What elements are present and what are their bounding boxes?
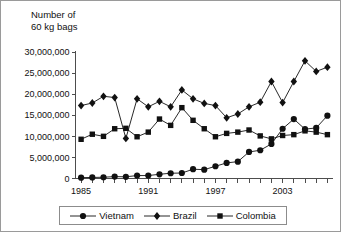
y-tick-label: 15,000,000 [24, 110, 69, 120]
x-axis: 1985199119972003 [71, 179, 333, 196]
square-marker-icon [207, 210, 233, 222]
legend-item-colombia[interactable]: Colombia [207, 210, 276, 222]
data-point [179, 105, 184, 110]
data-point [280, 126, 286, 132]
y-tick-label: 20,000,000 [24, 89, 69, 99]
chart-legend: VietnamBrazilColombia [59, 206, 287, 225]
data-point [134, 134, 139, 139]
data-point [235, 129, 240, 134]
data-point [146, 129, 151, 134]
data-point [157, 116, 162, 121]
data-point [291, 132, 296, 137]
data-point [269, 136, 274, 141]
data-point [100, 174, 106, 180]
data-point [302, 57, 308, 65]
data-point [123, 174, 129, 180]
data-point [212, 163, 218, 169]
circle-marker-icon [70, 210, 96, 222]
legend-label: Colombia [236, 210, 276, 221]
y-tick-label: 25,000,000 [24, 68, 69, 78]
data-point [314, 129, 319, 134]
x-tick-label: 1991 [138, 186, 158, 196]
chart-plot-area: 05,000,00010,000,00015,000,00020,000,000… [1, 1, 341, 232]
data-point [313, 67, 319, 75]
data-point [78, 137, 83, 142]
y-tick-label: 30,000,000 [24, 47, 69, 57]
data-point [145, 172, 151, 178]
legend-label: Vietnam [99, 210, 134, 221]
data-point [89, 174, 95, 180]
data-point [190, 118, 195, 123]
y-tick-label: 5,000,000 [29, 153, 69, 163]
data-point [112, 174, 118, 180]
data-point [123, 126, 128, 131]
legend-item-brazil[interactable]: Brazil [144, 210, 197, 222]
data-point [224, 131, 229, 136]
y-axis: 05,000,00010,000,00015,000,00020,000,000… [24, 47, 75, 184]
data-point [134, 95, 140, 103]
data-point [112, 126, 117, 131]
y-tick-label: 10,000,000 [24, 132, 69, 142]
data-point [258, 133, 263, 138]
data-point [324, 113, 330, 119]
data-point [90, 132, 95, 137]
y-tick-label: 0 [64, 174, 69, 184]
data-point [246, 149, 252, 155]
data-point [78, 175, 84, 181]
legend-label: Brazil [173, 210, 197, 221]
data-point [156, 97, 162, 105]
data-point [100, 92, 106, 100]
x-tick-label: 1997 [205, 186, 225, 196]
chart-figure: Number of 60 kg bags 05,000,00010,000,00… [0, 0, 341, 232]
data-point [201, 100, 207, 108]
data-point [257, 147, 263, 153]
data-point [190, 166, 196, 172]
data-point [268, 141, 274, 147]
data-point [145, 103, 151, 111]
series-colombia [78, 105, 330, 142]
diamond-marker-icon [144, 210, 170, 222]
data-point [168, 123, 173, 128]
x-tick-label: 2003 [273, 186, 293, 196]
data-point [111, 94, 117, 102]
data-point [156, 171, 162, 177]
data-point [201, 167, 207, 173]
data-point [325, 132, 330, 137]
series-vietnam [78, 113, 331, 181]
data-point [246, 127, 251, 132]
legend-item-vietnam[interactable]: Vietnam [70, 210, 134, 222]
data-point [279, 99, 285, 107]
data-point [202, 126, 207, 131]
data-point [213, 134, 218, 139]
data-point [190, 95, 196, 103]
data-point [324, 63, 330, 71]
data-point [268, 78, 274, 86]
data-point [235, 159, 241, 165]
data-point [257, 98, 263, 106]
data-point [291, 116, 297, 122]
data-point [224, 160, 230, 166]
data-point [246, 103, 252, 111]
data-point [78, 102, 84, 110]
data-point [235, 110, 241, 118]
data-point [291, 78, 297, 86]
data-point [89, 99, 95, 107]
data-point [101, 134, 106, 139]
data-point [280, 133, 285, 138]
data-point [302, 128, 307, 133]
data-series-group [78, 57, 331, 181]
x-tick-label: 1985 [71, 186, 91, 196]
data-point [179, 170, 185, 176]
data-point [134, 172, 140, 178]
series-line [81, 108, 327, 140]
data-point [123, 135, 129, 143]
data-point [168, 170, 174, 176]
